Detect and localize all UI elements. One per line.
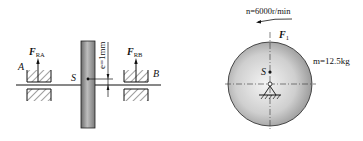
- front-view-figure: n=6000r/min S F1 m=12.5kg: [225, 6, 350, 131]
- rotor-diagram: A B S FRA FRB e=1mm n=6000r/min S F: [0, 0, 363, 141]
- rotation-arrow: [258, 19, 292, 22]
- force-label-b: FRB: [126, 46, 143, 58]
- center-of-mass-label-right: S: [261, 66, 266, 77]
- bearing-b-label: B: [153, 68, 159, 79]
- bearing-b: [124, 58, 148, 101]
- force-label-f1: F1: [278, 29, 289, 41]
- mass-label: m=12.5kg: [313, 56, 350, 66]
- side-view-figure: A B S FRA FRB e=1mm: [16, 41, 161, 128]
- bearing-a-label: A: [17, 61, 25, 72]
- bearing-a: [27, 58, 51, 101]
- rotor-disc: [81, 41, 95, 128]
- center-of-mass-dot-front: [268, 70, 271, 73]
- center-of-mass-label-left: S: [71, 72, 76, 83]
- force-label-a: FRA: [28, 46, 45, 58]
- eccentricity-label: e=1mm: [97, 41, 107, 69]
- speed-label: n=6000r/min: [246, 6, 291, 16]
